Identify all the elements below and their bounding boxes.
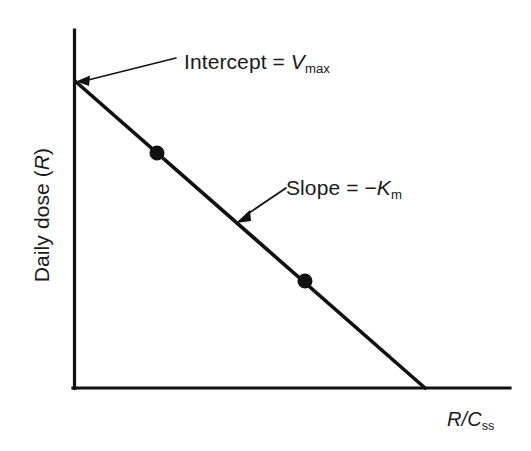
slope-annotation-label: Slope = −Km [286, 177, 402, 198]
regression-line [75, 81, 425, 388]
km-subscript: m [391, 187, 402, 202]
km-symbol: K [377, 176, 391, 199]
data-point [150, 146, 165, 161]
vmax-symbol: V [291, 50, 305, 73]
y-axis-label-suffix: ) [30, 148, 53, 155]
x-axis-label-numerator: R [447, 408, 462, 430]
y-axis-label-symbol: R [30, 155, 53, 170]
x-axis-label-subscript: ss [482, 419, 495, 433]
y-axis-label: Daily dose (R) [31, 95, 52, 335]
intercept-annotation-label: Intercept = Vmax [184, 51, 330, 72]
data-point [298, 274, 313, 289]
y-axis-label-prefix: Daily dose ( [30, 170, 53, 282]
intercept-annotation-text: Intercept = [184, 50, 291, 73]
slope-leader-line [246, 188, 286, 215]
x-axis-label: R/Css [447, 409, 494, 429]
figure-container: Intercept = Vmax Slope = −Km R/Css Daily… [0, 0, 531, 451]
slope-annotation-text: Slope = [286, 176, 364, 199]
slope-minus-sign: − [364, 176, 376, 199]
x-axis-label-denominator: C [467, 408, 482, 430]
slope-arrow-head [236, 210, 251, 223]
intercept-leader-line [86, 58, 176, 81]
vmax-subscript: max [305, 61, 330, 76]
